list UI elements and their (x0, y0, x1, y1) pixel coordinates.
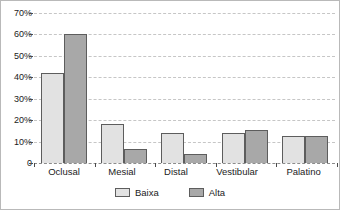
chart-legend: BaixaAlta (1, 187, 339, 198)
y-axis-tick-mark (29, 56, 33, 57)
y-axis-tick-mark (29, 34, 33, 35)
x-axis-label-oclusal: Oclusal (48, 166, 80, 177)
bar-chart-figure: 70%60%50%40%30%20%10%0 OclusalMesialDist… (0, 0, 340, 210)
bar-baixa-oclusal (41, 73, 64, 163)
bar-group (161, 13, 207, 163)
bar-alta-vestibular (245, 130, 268, 163)
bar-group (282, 13, 328, 163)
gridline (34, 163, 335, 164)
y-axis-tick-label: 70% (2, 8, 32, 18)
legend-entry-baixa: Baixa (115, 187, 159, 198)
x-axis-tick-mark (337, 163, 338, 167)
bar-alta-distal (184, 154, 207, 163)
bar-baixa-palatino (282, 136, 305, 163)
bar-alta-oclusal (64, 34, 87, 163)
legend-swatch-alta (189, 188, 204, 197)
y-axis-tick-label: 30% (2, 94, 32, 104)
bar-group (41, 13, 87, 163)
bar-alta-mesial (124, 149, 147, 163)
x-axis-label-mesial: Mesial (108, 166, 135, 177)
bars-layer (34, 13, 335, 163)
y-axis-tick-label: 20% (2, 115, 32, 125)
x-axis-labels: OclusalMesialDistalVestibularPalatino (34, 166, 335, 180)
y-axis-tick-label: 40% (2, 72, 32, 82)
y-axis-tick-mark (29, 99, 33, 100)
bar-baixa-distal (161, 133, 184, 163)
y-axis-tick-mark (29, 142, 33, 143)
y-axis-tick-label: 10% (2, 137, 32, 147)
legend-label-baixa: Baixa (135, 187, 159, 198)
x-axis-label-vestibular: Vestibular (216, 166, 258, 177)
y-axis-tick-mark (29, 120, 33, 121)
bar-group (101, 13, 147, 163)
x-axis-label-palatino: Palatino (286, 166, 320, 177)
y-axis-tick-mark (29, 163, 33, 164)
y-axis-tick-label: 50% (2, 51, 32, 61)
bar-group (222, 13, 268, 163)
legend-entry-alta: Alta (189, 187, 225, 198)
y-axis-tick-mark (29, 77, 33, 78)
legend-label-alta: Alta (209, 187, 225, 198)
y-axis-tick-label: 60% (2, 29, 32, 39)
bar-baixa-vestibular (222, 133, 245, 163)
x-axis-label-distal: Distal (164, 166, 188, 177)
y-axis-tick-mark (29, 13, 33, 14)
bar-baixa-mesial (101, 124, 124, 163)
y-axis-tick-label: 0 (2, 158, 32, 168)
bar-alta-palatino (305, 136, 328, 163)
legend-swatch-baixa (115, 188, 130, 197)
plot-area (34, 13, 335, 163)
